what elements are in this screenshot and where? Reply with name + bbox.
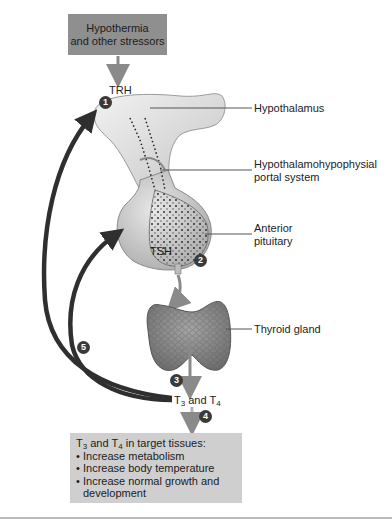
anterior-pituitary-label-1: Anterior bbox=[254, 222, 293, 235]
portal-system-label-1: Hypothalamohypophysial bbox=[254, 158, 377, 171]
trh-label: TRH bbox=[109, 84, 132, 97]
effect-item: Increase metabolism bbox=[76, 450, 242, 463]
effects-list: Increase metabolism Increase body temper… bbox=[76, 450, 242, 500]
effect-item: Increase body temperature bbox=[76, 462, 242, 475]
stimulus-line-1: Hypothermia bbox=[70, 22, 164, 35]
effects-heading: T3 and T4 in target tissues: bbox=[76, 437, 242, 450]
stimulus-box: Hypothermia and other stressors bbox=[68, 14, 167, 55]
stimulus-line-2: and other stressors bbox=[70, 35, 164, 48]
anterior-pituitary-label-2: pituitary bbox=[254, 235, 293, 248]
effect-item-continuation: development bbox=[76, 487, 242, 500]
step-3-badge: 3 bbox=[170, 374, 183, 387]
tsh-label: TSH bbox=[150, 245, 172, 258]
hypothalamus-label: Hypothalamus bbox=[254, 102, 324, 115]
portal-system-label-2: portal system bbox=[254, 171, 319, 184]
thyroid-gland-label: Thyroid gland bbox=[254, 323, 321, 336]
effect-item: Increase normal growth and bbox=[76, 475, 242, 488]
tsh-arrow bbox=[175, 275, 180, 303]
t3-t4-label: T3 and T4 bbox=[174, 394, 221, 407]
step-2-badge: 2 bbox=[194, 254, 207, 267]
step-4-badge: 4 bbox=[199, 410, 212, 423]
bottom-divider bbox=[0, 517, 392, 519]
step-1-badge: 1 bbox=[99, 96, 112, 109]
target-tissue-effects-box: T3 and T4 in target tissues: Increase me… bbox=[70, 433, 242, 503]
step-5-badge: 5 bbox=[77, 341, 90, 354]
